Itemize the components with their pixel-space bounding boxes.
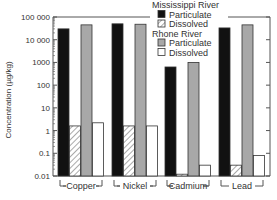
bar-cadmium-black — [165, 67, 176, 176]
y-tick-label: 10 000 — [26, 36, 51, 45]
bar-nickel-hatched — [124, 126, 135, 176]
y-tick-label: 1000 — [32, 58, 50, 67]
legend-group-title: Mississippi River — [152, 0, 219, 10]
bar-nickel-white — [147, 126, 158, 176]
bar-cadmium-gray — [188, 62, 199, 176]
bar-lead-white — [254, 155, 265, 176]
y-tick-label: 10 — [41, 104, 50, 113]
bar-cadmium-white — [200, 165, 211, 176]
category-label-nickel: Nickel — [123, 181, 148, 191]
bar-cadmium-hatched — [177, 174, 188, 176]
legend-group-title: Rhone River — [152, 29, 202, 39]
y-axis-title: Concentration (µg/kg) — [4, 61, 13, 138]
y-tick-label: 0.1 — [39, 149, 51, 158]
category-labels: CopperNickelCadmiumLead — [60, 180, 263, 191]
bar-copper-black — [58, 29, 69, 176]
y-tick-label: 1 — [46, 127, 51, 136]
bar-nickel-gray — [135, 24, 146, 176]
legend-swatch — [158, 20, 165, 27]
category-label-lead: Lead — [232, 181, 252, 191]
legend-item-label: Dissolved — [169, 19, 208, 29]
bars — [58, 24, 265, 176]
bar-copper-white — [93, 123, 104, 176]
legend-item-label: Particulate — [169, 38, 212, 48]
legend: Mississippi RiverParticulateDissolvedRho… — [152, 0, 219, 58]
legend-item-label: Particulate — [169, 10, 212, 20]
bar-lead-gray — [242, 25, 253, 176]
legend-item-label: Dissolved — [169, 48, 208, 58]
y-tick-label: 100 000 — [21, 13, 50, 22]
bar-lead-black — [219, 28, 230, 176]
legend-swatch — [158, 49, 165, 56]
category-label-cadmium: Cadmium — [169, 181, 208, 191]
y-tick-label: 0.01 — [34, 172, 50, 181]
bar-copper-hatched — [70, 126, 81, 176]
y-tick-label: 100 — [37, 81, 51, 90]
legend-swatch — [158, 11, 165, 18]
bar-chart: 100 00010 00010001001010.10.01 CopperNic… — [0, 0, 277, 200]
bar-copper-gray — [81, 25, 92, 176]
bar-lead-hatched — [231, 165, 242, 176]
category-label-copper: Copper — [66, 181, 96, 191]
bar-nickel-black — [112, 24, 123, 176]
legend-swatch — [158, 39, 165, 46]
